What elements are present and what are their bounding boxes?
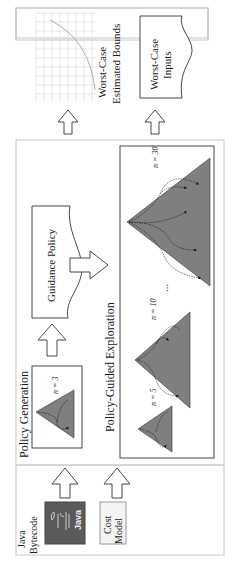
java-label-line1: Java <box>16 530 27 548</box>
inputs-label-line1: Worst-Case <box>148 39 160 90</box>
tree-n10-label: n = 10 <box>149 299 158 320</box>
bounds-chart-icon <box>36 13 96 102</box>
guidance-policy-label: Guidance Policy <box>45 228 57 302</box>
bounds-label-line2: Estimated Bounds <box>110 24 122 104</box>
exploration-title: Policy-Guided Exploration <box>103 302 117 432</box>
java-label-line2: Bytecode <box>28 516 39 554</box>
arrow-to-inputs <box>145 110 165 134</box>
arrow-to-bounds <box>58 110 78 134</box>
java-logo-text: Java <box>73 509 83 530</box>
bounds-label-line1: Worst-Case <box>96 47 108 98</box>
ellipsis: ... <box>158 284 170 293</box>
policy-generation-title: Policy Generation <box>17 371 31 458</box>
pipeline-diagram: Worst-Case Estimated Bounds Worst-Case I… <box>0 0 234 581</box>
cost-model-line2: Model <box>113 518 124 544</box>
arrow-to-guidance-policy <box>38 324 66 356</box>
arrow-from-java <box>52 468 78 498</box>
cost-model-line1: Cost <box>102 515 113 534</box>
tree-n3-label: n = 3 <box>51 377 60 394</box>
inputs-label-line2: Inputs <box>161 52 173 80</box>
tree-n30-label: n = 30 <box>151 147 160 168</box>
tree-n5-label: n = 5 <box>149 389 158 406</box>
arrow-from-cost-model <box>104 468 130 498</box>
